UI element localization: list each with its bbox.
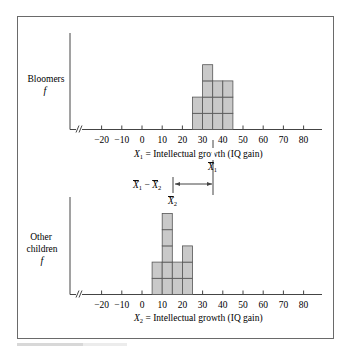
bottom-panel: −20−1001020304050607080 Other children f…	[26, 197, 322, 324]
top-x-label: X1 = Intellectual growth (IQ gain)	[133, 149, 263, 160]
axis-break-icon	[76, 126, 82, 134]
histogram-cell	[203, 81, 213, 97]
x-tick-label: 10	[157, 135, 167, 145]
difference-label: X1 − X2	[132, 180, 161, 191]
histogram-cell	[182, 262, 192, 278]
figure-caption-cutoff	[17, 343, 127, 346]
histogram-cell	[223, 113, 233, 129]
bottom-y-label-line2: children	[26, 244, 57, 254]
x-tick-label: 20	[178, 135, 188, 145]
histogram-cell	[193, 97, 203, 113]
mean1-label: X1	[207, 162, 217, 173]
histogram-cell	[223, 97, 233, 113]
x-tick-label: 0	[140, 300, 145, 310]
bottom-histogram-bars	[152, 214, 192, 295]
histogram-cell	[213, 97, 223, 113]
bottom-y-label-line1: Other	[30, 232, 52, 242]
x-tick-label: 80	[299, 135, 309, 145]
histogram-cell	[213, 113, 223, 129]
histogram-cell	[162, 214, 172, 230]
top-panel: −20−1001020304050607080 Bloomers f X1 = …	[28, 33, 322, 160]
top-y-label: Bloomers	[28, 74, 65, 84]
x-tick-label: 60	[258, 300, 268, 310]
x-tick-label: 70	[279, 135, 289, 145]
histogram-cell	[193, 113, 203, 129]
histogram-cell	[182, 246, 192, 262]
histogram-cell	[162, 262, 172, 278]
x-tick-label: 50	[238, 300, 248, 310]
x-tick-label: 30	[198, 135, 208, 145]
x-tick-label: 10	[157, 300, 167, 310]
bottom-x-label: X2 = Intellectual growth (IQ gain)	[133, 313, 263, 324]
histogram-cell	[162, 246, 172, 262]
histogram-cell	[152, 262, 162, 278]
histogram-cell	[203, 65, 213, 81]
x-tick-label: −10	[114, 135, 129, 145]
histogram-cell	[182, 278, 192, 294]
histogram-cell	[162, 278, 172, 294]
bottom-x-ticks: −20−1001020304050607080	[94, 291, 308, 310]
histogram-cell	[203, 113, 213, 129]
bottom-f-label: f	[41, 255, 45, 266]
histogram-cell	[162, 230, 172, 246]
histogram-cell	[213, 81, 223, 97]
x-tick-label: −20	[94, 135, 109, 145]
mean2-label: X2	[167, 196, 177, 207]
x-tick-label: −20	[94, 300, 109, 310]
histogram-cell	[203, 97, 213, 113]
arrowhead-left-icon	[175, 182, 180, 186]
x-tick-label: −10	[114, 300, 129, 310]
top-histogram-bars	[193, 65, 233, 130]
histogram-cell	[152, 278, 162, 294]
histogram-cell	[172, 262, 182, 278]
axis-break-icon	[76, 291, 82, 299]
x-tick-label: 30	[198, 300, 208, 310]
x-tick-label: 80	[299, 300, 309, 310]
histogram-cell	[172, 278, 182, 294]
histogram-figure: −20−1001020304050607080 Bloomers f X1 = …	[0, 0, 348, 347]
x-tick-label: 20	[178, 300, 188, 310]
x-tick-label: 40	[218, 300, 228, 310]
x-tick-label: 70	[279, 300, 289, 310]
x-tick-label: 50	[238, 135, 248, 145]
histogram-cell	[223, 81, 233, 97]
x-tick-label: 0	[140, 135, 145, 145]
arrowhead-right-icon	[207, 182, 212, 186]
x-tick-label: 40	[218, 135, 228, 145]
top-f-label: f	[44, 85, 48, 96]
x-tick-label: 60	[258, 135, 268, 145]
